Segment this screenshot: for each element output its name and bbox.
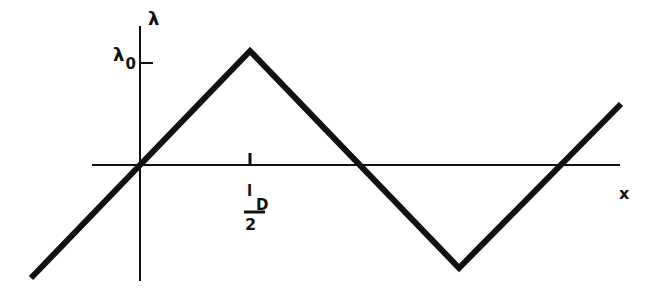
x-axis-label: x [619,184,629,203]
y-tick-label: λ0 [113,44,136,65]
y-tick-subscript: 0 [125,55,135,73]
x-tick-denominator: 2 [245,215,256,234]
y-axis-label: λ [148,8,159,29]
x-tick-subscript: D [256,196,268,214]
x-tick-numerator: l [247,182,252,200]
y-tick-symbol: λ [113,44,124,65]
diagram-canvas [0,0,651,294]
